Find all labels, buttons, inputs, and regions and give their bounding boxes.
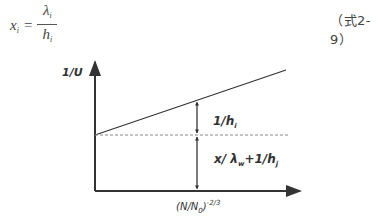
- x-axis-label: (N/N0)-2/3: [176, 199, 220, 215]
- wilson-plot-diagram: [0, 0, 382, 218]
- y-axis-label: 1/U: [62, 66, 83, 79]
- upper-segment-label: 1/hi: [213, 114, 237, 130]
- lower-segment-label: x/ λw+1/hj: [214, 152, 278, 168]
- regression-line: [95, 70, 286, 135]
